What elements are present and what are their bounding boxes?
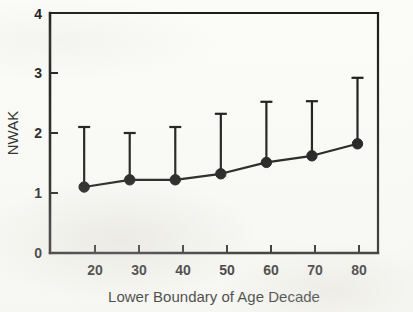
data-point-70 [307,151,317,161]
y-tick-label-2: 2 [34,125,42,141]
y-axis-title: NWAK [4,111,21,155]
data-point-60 [261,157,271,167]
x-tick-label-30: 30 [131,262,147,278]
y-axis-tick-labels: 0 1 2 3 4 [34,6,42,261]
x-axis-title: Lower Boundary of Age Decade [108,288,320,305]
x-tick-label-20: 20 [87,262,103,278]
y-tick-label-4: 4 [34,6,42,22]
data-point-40 [170,175,180,185]
x-axis-tick-labels: 20 30 40 50 60 70 80 [87,262,367,278]
x-tick-label-70: 70 [307,262,323,278]
x-tick-label-60: 60 [263,262,279,278]
chart-canvas: 0 1 2 3 4 20 30 40 50 60 70 80 [0,0,413,312]
x-tick-label-50: 50 [219,262,235,278]
data-point-80 [352,139,362,149]
x-tick-label-40: 40 [175,262,191,278]
data-point-50 [216,169,226,179]
y-tick-label-3: 3 [34,65,42,81]
plot-frame [50,13,378,253]
data-point-30 [125,175,135,185]
y-tick-label-1: 1 [34,185,42,201]
chart-figure: 0 1 2 3 4 20 30 40 50 60 70 80 [0,0,413,312]
x-tick-label-80: 80 [351,262,367,278]
y-tick-label-0: 0 [34,245,42,261]
plot-border [50,13,378,253]
data-point-20 [79,182,89,192]
